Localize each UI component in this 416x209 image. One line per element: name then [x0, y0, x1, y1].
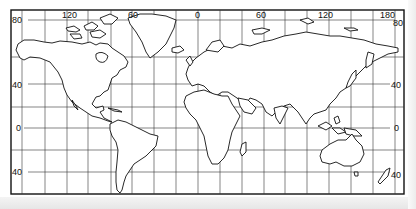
lon-label-0: 0	[195, 10, 200, 20]
lat-label-80n-left: 80	[12, 15, 22, 25]
world-map: 120 60 0 60 120 180 80 40 0 40 80 40 0 4…	[0, 0, 416, 209]
lat-label-40s-right: 40	[391, 170, 401, 180]
lat-label-40n-left: 40	[12, 80, 22, 90]
lat-label-0-right: 0	[394, 123, 399, 133]
lon-label-60e: 60	[256, 10, 266, 20]
page-edge-shadow	[0, 197, 416, 209]
lon-label-120e: 120	[318, 10, 333, 20]
lat-label-80n-right: 80	[393, 18, 403, 28]
lat-label-40n-right: 40	[391, 80, 401, 90]
lat-label-0-left: 0	[16, 123, 21, 133]
page-edge-shadow-right	[408, 0, 416, 209]
lon-label-60w: 60	[128, 10, 138, 20]
lat-label-40s-left: 40	[12, 167, 22, 177]
lon-label-120w: 120	[62, 10, 77, 20]
